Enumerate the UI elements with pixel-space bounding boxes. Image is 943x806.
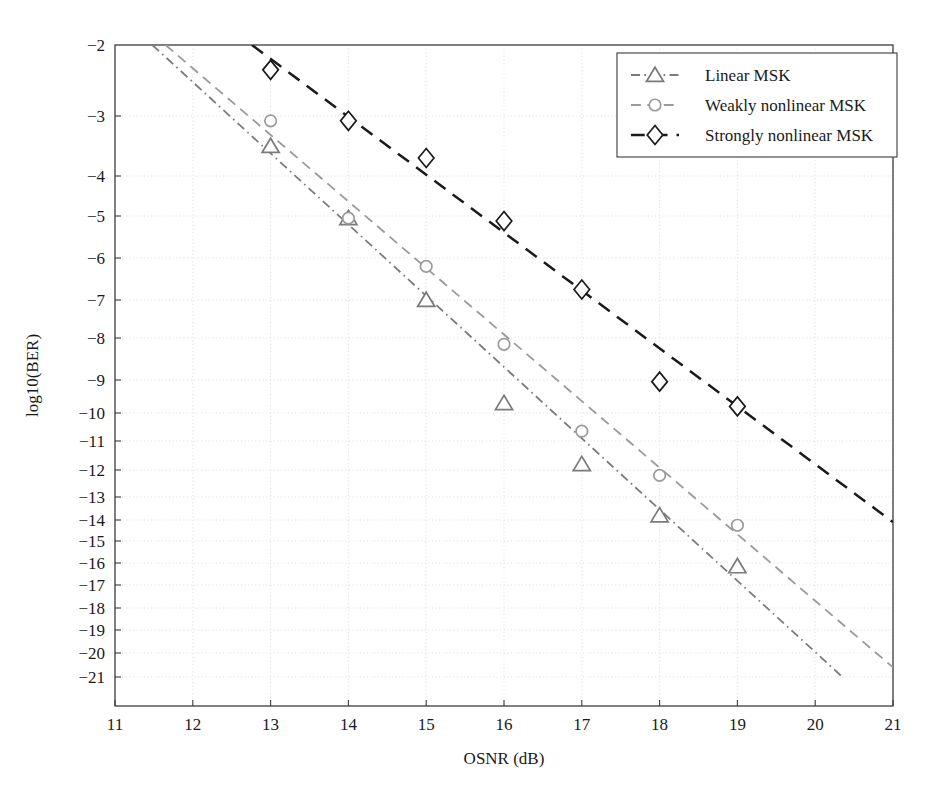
y-tick-label: −2 xyxy=(87,36,105,55)
circle-marker xyxy=(654,470,666,482)
chart-figure: 1112131415161718192021 −2−3−4−5−6−7−8−9−… xyxy=(0,0,943,806)
x-tick-label: 14 xyxy=(340,715,358,734)
circle-marker xyxy=(576,425,588,437)
y-tick-label: −10 xyxy=(78,404,105,423)
y-tick-label: −14 xyxy=(78,511,105,530)
y-tick-label: −7 xyxy=(87,291,106,310)
x-tick-label: 13 xyxy=(262,715,279,734)
x-tick-label: 12 xyxy=(184,715,201,734)
x-tick-label: 18 xyxy=(651,715,668,734)
x-tick-label: 17 xyxy=(573,715,591,734)
legend-label: Strongly nonlinear MSK xyxy=(705,126,874,145)
y-tick-label: −12 xyxy=(78,461,105,480)
legend-label: Linear MSK xyxy=(705,66,791,85)
y-tick-label: −15 xyxy=(78,532,105,551)
circle-marker xyxy=(343,212,355,224)
y-tick-label: −8 xyxy=(87,329,105,348)
y-tick-label: −13 xyxy=(78,488,105,507)
y-tick-label: −17 xyxy=(78,576,105,595)
x-axis-title: OSNR (dB) xyxy=(464,749,545,768)
legend-label: Weakly nonlinear MSK xyxy=(705,96,867,115)
circle-marker xyxy=(498,339,510,351)
y-tick-label: −21 xyxy=(78,668,105,687)
x-tick-label: 16 xyxy=(496,715,513,734)
y-tick-label: −18 xyxy=(78,599,105,618)
legend-item-0[interactable]: Linear MSK xyxy=(631,66,791,85)
x-tick-label: 15 xyxy=(418,715,435,734)
y-tick-label: −20 xyxy=(78,644,105,663)
circle-marker xyxy=(649,99,661,111)
y-tick-label: −16 xyxy=(78,554,105,573)
circle-marker xyxy=(420,261,432,273)
circle-marker xyxy=(732,519,744,531)
y-axis-title: log10(BER) xyxy=(23,334,42,417)
x-tick-label: 20 xyxy=(807,715,824,734)
ber-vs-osnr-chart: 1112131415161718192021 −2−3−4−5−6−7−8−9−… xyxy=(0,0,943,806)
x-tick-label: 19 xyxy=(729,715,746,734)
x-tick-label: 11 xyxy=(107,715,123,734)
y-tick-label: −19 xyxy=(78,621,105,640)
y-tick-label: −11 xyxy=(79,432,105,451)
circle-marker xyxy=(265,115,277,127)
chart-legend[interactable]: Linear MSKWeakly nonlinear MSKStrongly n… xyxy=(617,53,897,157)
y-tick-label: −4 xyxy=(87,167,106,186)
y-tick-label: −3 xyxy=(87,107,105,126)
y-tick-label: −6 xyxy=(87,249,105,268)
x-tick-label: 21 xyxy=(885,715,902,734)
y-tick-label: −5 xyxy=(87,207,105,226)
y-tick-label: −9 xyxy=(87,371,105,390)
